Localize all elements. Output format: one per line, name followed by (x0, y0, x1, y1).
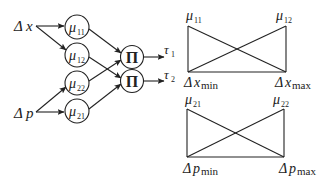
input-edges (36, 26, 66, 112)
svg-text:μ: μ (68, 104, 76, 119)
svg-text:11: 11 (194, 16, 202, 25)
membership-plot-dp: μ 21 μ 22 Δ p min Δ p max (182, 92, 316, 177)
plot1-bottom-left-label: Δ x min (183, 75, 219, 91)
input-dp-label: Δ p (13, 105, 34, 121)
plot2-top-left-label: μ 21 (184, 92, 201, 109)
membership-node-mu21: μ 21 (65, 99, 89, 123)
svg-text:μ: μ (275, 8, 283, 23)
svg-text:12: 12 (77, 56, 85, 65)
svg-text:μ: μ (68, 20, 76, 35)
svg-text:μ: μ (68, 76, 76, 91)
svg-text:min: min (201, 165, 219, 177)
svg-text:μ: μ (272, 92, 280, 107)
membership-plot-dx: μ 11 μ 12 Δ x min Δ x max (183, 8, 311, 91)
edge-mu21-pi2 (89, 84, 121, 109)
svg-text:min: min (201, 79, 219, 91)
plot1-bottom-right-label: Δ x max (274, 75, 311, 91)
svg-text:21: 21 (77, 112, 85, 121)
svg-text:μ: μ (185, 8, 193, 23)
plot1-top-left-label: μ 11 (185, 8, 202, 25)
svg-text:Δ: Δ (182, 161, 191, 176)
input-dx-label: Δ x (13, 18, 33, 34)
edge-dp-mu22 (36, 87, 66, 112)
svg-text:p: p (288, 161, 296, 176)
plot1-top-right-label: μ 12 (275, 8, 292, 25)
output-tau1-label: τ 1 (164, 42, 175, 59)
svg-text:22: 22 (281, 100, 289, 109)
rule-edges (89, 29, 121, 109)
membership-node-mu12: μ 12 (65, 43, 89, 67)
svg-text:μ: μ (184, 92, 192, 107)
svg-text:μ: μ (68, 48, 76, 63)
svg-text:Δ: Δ (13, 105, 23, 121)
svg-text:p: p (25, 105, 34, 121)
edge-mu11-pi1 (89, 29, 121, 53)
edge-dx-mu12 (36, 26, 66, 50)
svg-text:1: 1 (171, 50, 175, 59)
plot2-bottom-right-label: Δ p max (278, 161, 316, 177)
svg-text:22: 22 (77, 84, 85, 93)
plot2-bottom-left-label: Δ p min (182, 161, 219, 177)
svg-text:2: 2 (171, 75, 175, 84)
svg-text:p: p (192, 161, 200, 176)
svg-text:x: x (284, 75, 292, 90)
svg-text:Π: Π (126, 49, 139, 66)
output-edges (144, 57, 165, 81)
product-node-2: Π (121, 70, 144, 93)
svg-text:Δ: Δ (278, 161, 287, 176)
svg-text:12: 12 (284, 16, 292, 25)
fuzzy-network-diagram: Δ x Δ p μ 11 μ 12 μ 22 μ 21 (0, 0, 332, 184)
output-tau2-label: τ 2 (164, 67, 175, 84)
svg-text:11: 11 (77, 28, 85, 37)
svg-text:Π: Π (126, 73, 139, 90)
svg-text:Δ: Δ (274, 75, 283, 90)
edge-mu22-pi1 (89, 60, 121, 81)
svg-text:x: x (193, 75, 201, 90)
membership-node-mu11: μ 11 (65, 15, 89, 39)
svg-text:τ: τ (164, 42, 170, 57)
svg-text:τ: τ (164, 67, 170, 82)
svg-text:Δ: Δ (183, 75, 192, 90)
product-node-1: Π (121, 46, 144, 69)
svg-text:max: max (297, 165, 316, 177)
membership-node-mu22: μ 22 (65, 71, 89, 95)
svg-text:max: max (292, 79, 311, 91)
svg-text:Δ: Δ (13, 18, 23, 34)
edge-mu12-pi2 (89, 57, 121, 78)
svg-text:x: x (25, 18, 33, 34)
plot2-top-right-label: μ 22 (272, 92, 289, 109)
svg-text:21: 21 (193, 100, 201, 109)
